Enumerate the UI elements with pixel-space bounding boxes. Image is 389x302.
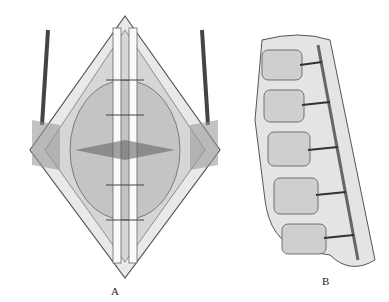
panel-a-illustration — [30, 16, 220, 278]
surgical-illustration — [0, 0, 389, 302]
panel-label-a: A — [111, 285, 119, 297]
panel-b-illustration — [255, 35, 375, 266]
panel-label-b: B — [322, 275, 329, 287]
